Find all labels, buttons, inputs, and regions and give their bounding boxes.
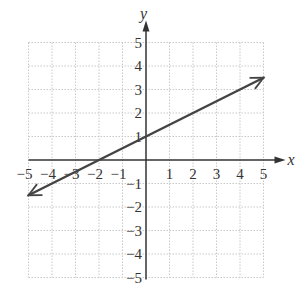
x-axis-arrow-icon — [275, 157, 286, 164]
x-tick-label: −4 — [40, 166, 56, 182]
y-tick-label: 3 — [135, 82, 143, 98]
x-tick-label: 3 — [213, 166, 221, 182]
y-tick-label: 4 — [135, 58, 143, 74]
x-tick-label: 5 — [260, 166, 268, 182]
y-tick-label: 2 — [135, 105, 143, 121]
y-axis-label: y — [138, 5, 148, 23]
coordinate-plane: −5−4−3−2−11234554321−1−2−3−4−5 x y — [0, 0, 295, 295]
axes — [29, 21, 286, 280]
y-tick-label: −1 — [126, 176, 142, 192]
y-tick-label: −3 — [126, 223, 142, 239]
x-tick-label: −1 — [111, 166, 127, 182]
y-axis-arrow-icon — [143, 21, 150, 32]
y-tick-label: −5 — [126, 270, 142, 286]
x-tick-label: 2 — [189, 166, 197, 182]
y-tick-label: 5 — [135, 35, 143, 51]
x-tick-label: −2 — [87, 166, 103, 182]
x-tick-label: 4 — [236, 166, 244, 182]
x-tick-label: −5 — [17, 166, 33, 182]
y-tick-label: −2 — [126, 199, 142, 215]
x-tick-label: 1 — [166, 166, 174, 182]
y-tick-label: −4 — [126, 246, 142, 262]
x-axis-label: x — [287, 151, 295, 168]
